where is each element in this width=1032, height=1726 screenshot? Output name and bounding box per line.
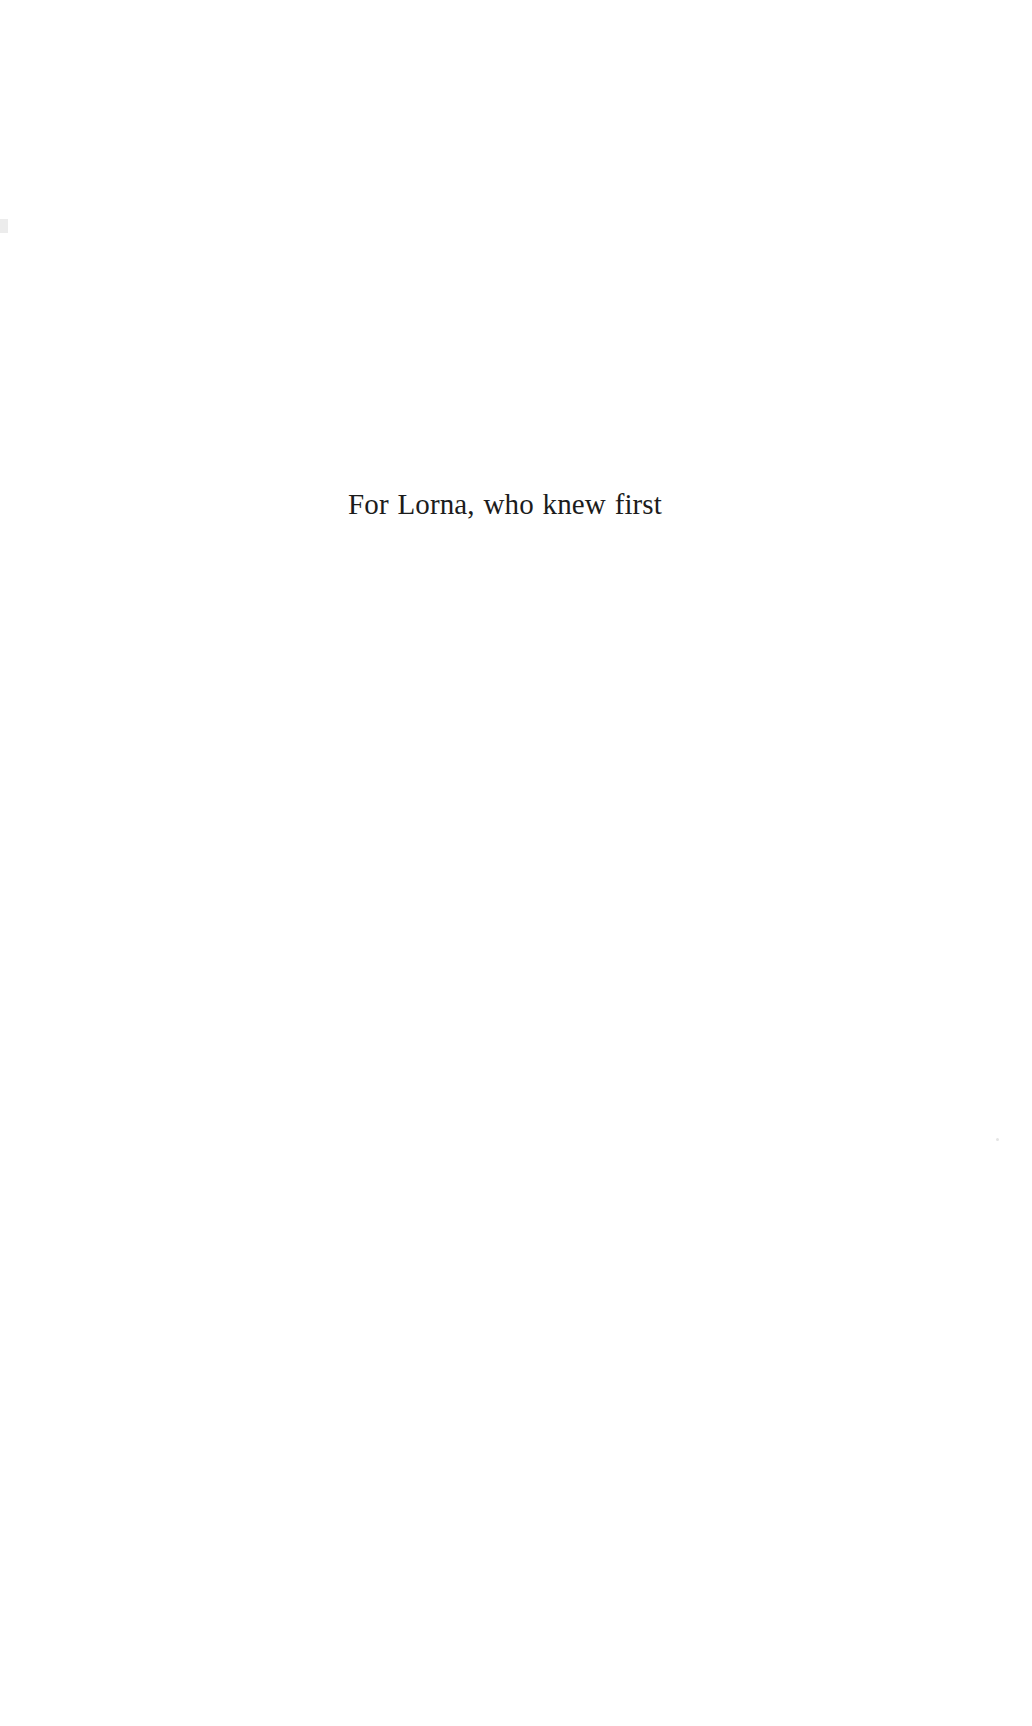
dedication-text: For Lorna, who knew first — [339, 487, 671, 521]
scan-dust-speck-icon — [996, 1138, 999, 1141]
page-text-block: For Lorna, who knew first — [0, 0, 1032, 1726]
dedication-page: For Lorna, who knew first — [0, 0, 1032, 1726]
scan-edge-mark-icon — [0, 219, 8, 233]
